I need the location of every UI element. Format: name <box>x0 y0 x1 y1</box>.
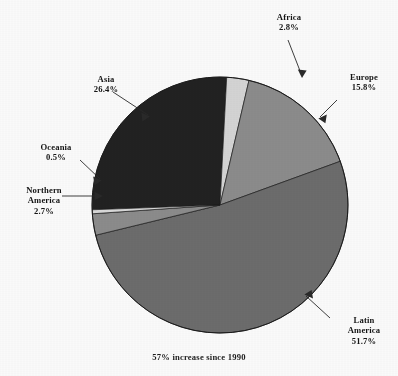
label-africa: Africa 2.8% <box>250 12 328 33</box>
label-asia-name: Asia <box>68 74 144 84</box>
chart-footnote: 57% increase since 1990 <box>0 352 398 362</box>
label-africa-value: 2.8% <box>250 22 328 32</box>
label-asia: Asia 26.4% <box>68 74 144 95</box>
pie-slice-asia[interactable] <box>92 77 227 210</box>
leader-line-latin-america <box>306 296 330 318</box>
label-northern-america-value: 2.7% <box>6 206 82 216</box>
label-asia-value: 26.4% <box>68 84 144 94</box>
label-latin-america-name-line2: America <box>332 325 396 335</box>
label-africa-name: Africa <box>250 12 328 22</box>
label-latin-america-value: 51.7% <box>332 336 396 346</box>
label-northern-america-name-line2: America <box>6 195 82 205</box>
pie-chart-figure: Africa 2.8% Europe 15.8% Asia 26.4% Ocea… <box>0 0 398 376</box>
label-latin-america-name-line1: Latin <box>332 315 396 325</box>
label-europe: Europe 15.8% <box>330 72 398 93</box>
label-northern-america-name-line1: Northern <box>6 185 82 195</box>
label-europe-value: 15.8% <box>330 82 398 92</box>
arrowhead-europe <box>318 114 326 123</box>
label-oceania: Oceania 0.5% <box>18 142 94 163</box>
label-oceania-name: Oceania <box>18 142 94 152</box>
label-oceania-value: 0.5% <box>18 152 94 162</box>
label-latin-america: Latin America 51.7% <box>332 315 396 346</box>
label-europe-name: Europe <box>330 72 398 82</box>
leader-line-europe <box>320 100 337 117</box>
chart-title <box>0 0 398 3</box>
label-northern-america: Northern America 2.7% <box>6 185 82 216</box>
arrowhead-africa <box>298 70 307 78</box>
